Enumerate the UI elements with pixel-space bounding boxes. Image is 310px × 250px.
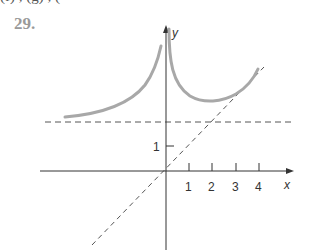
curve-right-branch (169, 29, 258, 101)
x-tick-label: 4 (255, 180, 262, 194)
x-axis-arrow-icon (286, 168, 294, 174)
curve-left-branch (65, 46, 161, 117)
graph: 1 2 3 4 1 x y (0, 0, 310, 250)
x-tick-label: 3 (232, 180, 239, 194)
y-tick-label: 1 (153, 140, 160, 154)
x-axis-label: x (283, 178, 291, 192)
x-tick-label: 1 (185, 180, 192, 194)
y-axis-label: y (171, 26, 179, 40)
x-ticks (189, 163, 259, 171)
x-tick-label: 2 (208, 180, 215, 194)
